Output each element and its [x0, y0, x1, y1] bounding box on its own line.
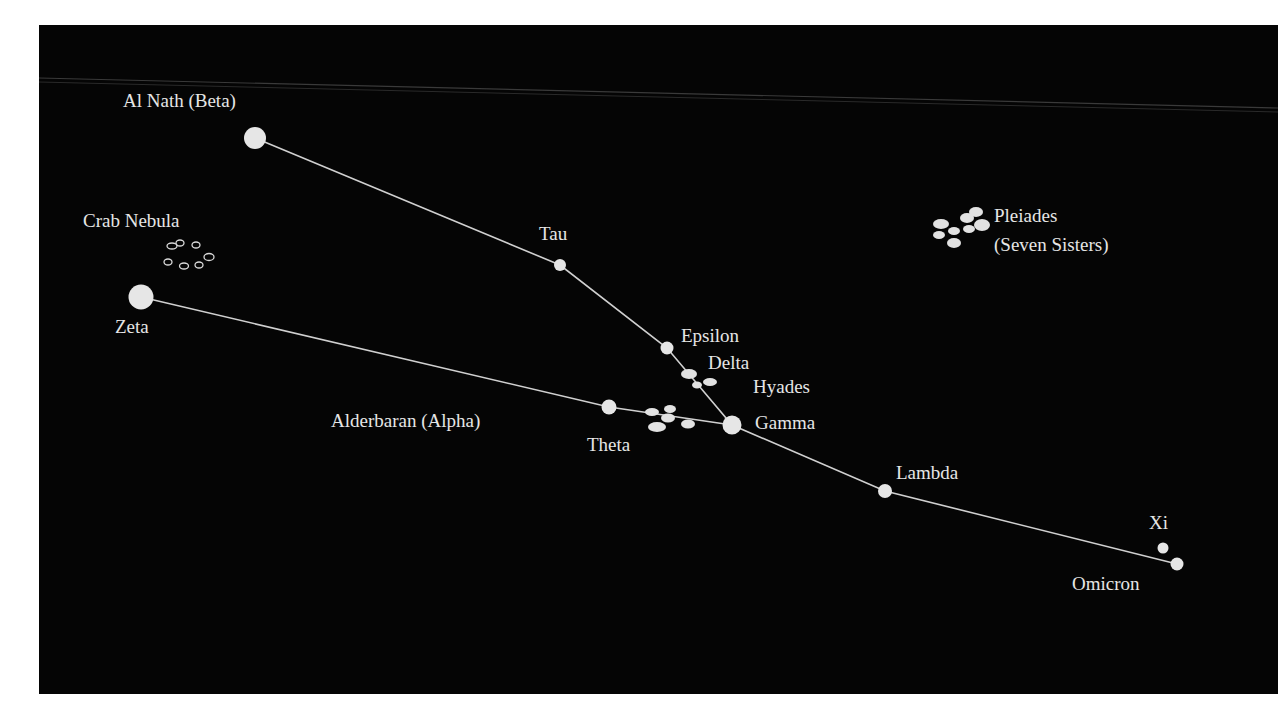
label-gamma: Gamma	[755, 412, 815, 434]
star-xi-icon	[1158, 543, 1169, 554]
hyades-cluster-icon	[645, 369, 717, 432]
star-chart-panel: Al Nath (Beta) Crab Nebula Zeta Tau Plei…	[39, 25, 1278, 694]
label-pleiades: Pleiades	[994, 205, 1057, 227]
label-hyades: Hyades	[753, 376, 810, 398]
label-alderbaran: Alderbaran (Alpha)	[331, 410, 480, 432]
label-zeta: Zeta	[115, 316, 149, 338]
star-alderbaran-icon	[602, 400, 617, 415]
star-zeta-icon	[129, 285, 154, 310]
label-crab-nebula: Crab Nebula	[83, 210, 180, 232]
star-epsilon-icon	[661, 342, 674, 355]
star-omicron-icon	[1171, 558, 1184, 571]
label-al-nath: Al Nath (Beta)	[123, 90, 236, 112]
constellation-line-main	[141, 138, 1177, 564]
crab-nebula-icon	[164, 240, 214, 269]
pleiades-cluster-icon	[933, 207, 990, 248]
label-xi: Xi	[1149, 512, 1168, 534]
label-lambda: Lambda	[896, 462, 958, 484]
star-tau-icon	[554, 259, 566, 271]
stars	[129, 127, 1184, 571]
label-delta: Delta	[708, 352, 749, 374]
star-lambda-icon	[878, 484, 892, 498]
label-omicron: Omicron	[1072, 573, 1140, 595]
star-gamma-icon	[723, 416, 742, 435]
star-al-nath-icon	[244, 127, 266, 149]
label-tau: Tau	[539, 223, 567, 245]
label-seven-sisters: (Seven Sisters)	[994, 234, 1109, 256]
label-epsilon: Epsilon	[681, 325, 739, 347]
label-theta: Theta	[587, 434, 630, 456]
